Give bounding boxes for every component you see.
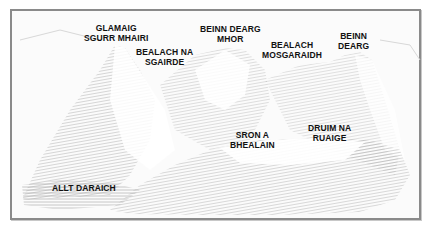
label-line: MHOR — [200, 35, 261, 45]
label-line: RUAIGE — [308, 134, 351, 144]
label-line: DEARG — [338, 42, 369, 52]
label-allt-daraich: ALLT DARAICH — [52, 184, 116, 194]
label-druim-na-ruaige: DRUIM NA RUAIGE — [308, 124, 351, 143]
label-bealach-na-sgairde: BEALACH NA SGAIRDE — [136, 48, 193, 67]
label-glamaig: GLAMAIG SGURR MHAIRI — [84, 24, 148, 43]
label-line: ALLT DARAICH — [52, 184, 116, 194]
label-bealach-mosgaraidh: BEALACH MOSGARAIDH — [262, 41, 322, 60]
label-line: SGAIRDE — [136, 58, 193, 68]
label-sron-a-bhealain: SRON A BHEALAIN — [230, 131, 275, 150]
label-line: SGURR MHAIRI — [84, 34, 148, 44]
label-line: BHEALAIN — [230, 141, 275, 151]
label-beinn-dearg: BEINN DEARG — [338, 32, 369, 51]
label-line: MOSGARAIDH — [262, 51, 322, 61]
label-beinn-dearg-mhor: BEINN DEARG MHOR — [200, 25, 261, 44]
